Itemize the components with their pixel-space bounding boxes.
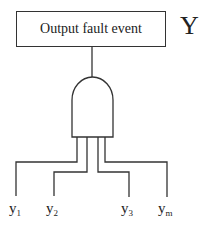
input-line-y3 [98,137,129,197]
input-label-y1: y1 [9,201,21,218]
input-label-ym: ym [158,201,173,218]
input-label-y3: y3 [121,201,133,218]
input-line-ym [105,137,167,197]
input-line-y2 [54,137,87,196]
input-line-y1 [16,137,77,196]
and-gate-icon [72,77,113,137]
fault-tree-lines [0,0,208,227]
input-label-y2: y2 [46,201,58,218]
